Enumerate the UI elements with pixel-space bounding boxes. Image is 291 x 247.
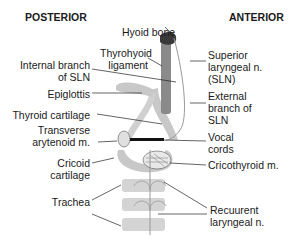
- label-internal-branch-2: of SLN: [10, 71, 90, 83]
- label-thyroid-cartilage: Thyroid cartilage: [5, 109, 90, 121]
- label-transverse-1: Transverse: [10, 124, 90, 136]
- trachea-ring-3: [122, 218, 165, 231]
- cricothyroid-muscle: [143, 151, 171, 169]
- label-cricoid-2: cartilage: [10, 169, 90, 181]
- label-recurrent-1: Recuurent: [210, 204, 258, 216]
- label-cricoid-1: Cricoid: [10, 157, 90, 169]
- posterior-header: POSTERIOR: [25, 11, 87, 23]
- label-trachea: Trachea: [10, 196, 90, 208]
- label-epiglottis: Epiglottis: [10, 88, 90, 100]
- label-recurrent-2: laryngeal n.: [210, 216, 264, 228]
- trachea-ring-2: [122, 198, 165, 211]
- label-internal-branch-1: Internal branch: [10, 59, 90, 71]
- label-sln-3: (SLN): [208, 73, 235, 85]
- label-ext-1: External: [208, 90, 247, 102]
- label-thyrohyoid-2: ligament: [100, 59, 148, 71]
- label-vocal-1: Vocal: [208, 131, 234, 143]
- transverse-arytenoid: [118, 131, 130, 147]
- epiglottis: [116, 83, 154, 97]
- label-ext-3: SLN: [208, 114, 228, 126]
- label-transverse-2: arytenoid m.: [10, 136, 90, 148]
- label-ext-2: branch of: [208, 102, 252, 114]
- anterior-header: ANTERIOR: [229, 11, 284, 23]
- label-thyrohyoid-1: Thyrohyoid: [100, 47, 148, 59]
- label-vocal-2: cords: [208, 143, 234, 155]
- label-sln-2: laryngeal n.: [208, 61, 262, 73]
- label-sln-1: Superior: [208, 49, 248, 61]
- label-cricothyroid: Cricothyroid m.: [208, 159, 279, 171]
- thyrohyoid-ligament: [161, 42, 171, 114]
- label-hyoid-bone: Hyoid bone: [122, 26, 175, 38]
- vocal-cords: [130, 138, 164, 141]
